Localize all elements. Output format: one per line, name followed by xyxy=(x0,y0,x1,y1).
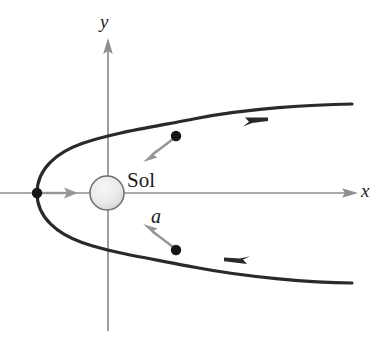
accel-vector-upper-head xyxy=(143,149,158,162)
trajectory-upper-branch xyxy=(37,104,352,193)
y-axis-label: y xyxy=(100,12,108,31)
trajectory-lower-branch xyxy=(37,193,352,283)
axes-group xyxy=(0,38,358,331)
direction-arrowhead-lower xyxy=(224,256,250,264)
sol-circle xyxy=(90,176,124,210)
trajectory-figure xyxy=(0,0,379,358)
lower-body-marker xyxy=(171,245,181,255)
acceleration-label: a xyxy=(151,206,161,226)
accel-vector-lower-shaft xyxy=(152,231,173,247)
sol-label: Sol xyxy=(127,170,155,191)
upper-body-marker xyxy=(171,131,181,141)
vertex-marker xyxy=(32,188,42,198)
x-axis-label: x xyxy=(361,181,369,200)
direction-arrowhead-upper xyxy=(243,118,268,127)
sol-body-group xyxy=(90,176,124,210)
accel-vector-upper-shaft xyxy=(152,139,173,155)
